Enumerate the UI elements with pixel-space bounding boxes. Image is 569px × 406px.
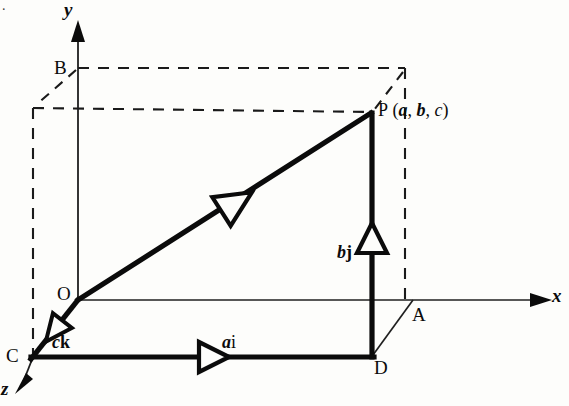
dashed-diagonals (36, 70, 403, 110)
vector-diagram-svg (0, 0, 569, 406)
p-coord-c: c (435, 100, 443, 120)
diagram-canvas: . y x z B O C A D P (a, b, c) ck ai bj (0, 0, 569, 406)
p-close-paren: ) (443, 100, 449, 120)
vector-label-ai: ai (222, 333, 236, 351)
x-axis-arrowhead-icon (530, 293, 552, 307)
point-label-o: O (57, 284, 71, 303)
z-axis-arrowhead-icon (15, 373, 33, 394)
vector-bj-arrowhead-icon (357, 223, 387, 253)
vector-ck-scalar: c (52, 332, 60, 352)
point-label-p-coordinates: P (a, b, c) (378, 101, 449, 119)
point-label-c: C (6, 346, 19, 365)
vector-ck-unit: k (60, 332, 70, 352)
corner-artifact: . (2, 0, 6, 14)
vector-bj-scalar: b (337, 242, 346, 262)
y-axis-label: y (64, 0, 72, 19)
z-axis-label: z (1, 379, 8, 398)
point-label-d: D (374, 358, 388, 377)
p-name: P (378, 100, 388, 120)
y-axis-arrowhead-icon (71, 20, 85, 42)
vector-label-ck: ck (52, 333, 70, 351)
dashed-line-p-horizontal (33, 108, 372, 112)
x-axis-label: x (552, 286, 562, 305)
point-label-b: B (54, 58, 67, 77)
p-coord-b: b (417, 100, 426, 120)
vector-ai-scalar: a (222, 332, 231, 352)
vector-ai-unit: i (231, 332, 236, 352)
vector-bj-unit: j (346, 242, 352, 262)
vector-label-bj: bj (337, 243, 352, 261)
thick-vector-group (31, 113, 374, 359)
point-label-a: A (412, 305, 426, 324)
p-coord-a: a (399, 100, 408, 120)
line-a-to-d (373, 300, 413, 355)
